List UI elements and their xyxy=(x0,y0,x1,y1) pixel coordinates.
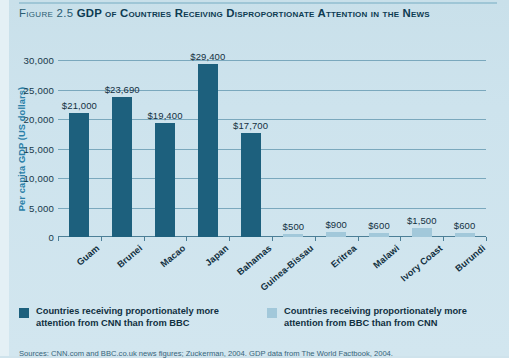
title-top-rule xyxy=(19,2,497,4)
y-tick-label: 15,000 xyxy=(23,143,54,154)
x-tick-mark xyxy=(486,237,487,241)
bar-japan xyxy=(198,64,218,237)
y-tick-label: 25,000 xyxy=(23,84,54,95)
x-tick-mark xyxy=(272,237,273,241)
bar-value-label: $500 xyxy=(283,221,305,232)
bar-brunei xyxy=(112,97,132,237)
x-tick-mark xyxy=(229,237,230,241)
bar-malawi xyxy=(369,233,389,237)
bar-guinea-bissau xyxy=(283,234,303,237)
y-tick-label: 5,000 xyxy=(29,202,54,213)
x-tick-label: Ivory Coast xyxy=(399,243,445,284)
y-axis-tick-labels: 05,00010,00015,00020,00025,00030,000 xyxy=(0,60,54,237)
x-tick-mark xyxy=(400,237,401,241)
figure-title-block: Figure 2.5 GDP of Countries Receiving Di… xyxy=(19,6,497,21)
figure-title-text: GDP of Countries Receiving Disproportion… xyxy=(77,7,430,19)
legend-swatch-cnn-icon xyxy=(19,308,29,318)
bar-value-label: $600 xyxy=(368,220,390,231)
bar-value-label: $1,500 xyxy=(407,215,437,226)
bar-value-label: $600 xyxy=(454,220,476,231)
x-tick-mark xyxy=(443,237,444,241)
page-title: Figure 2.5 GDP of Countries Receiving Di… xyxy=(19,6,497,21)
plot-area: $21,000Guam$23,690Brunei$19,400Macao$29,… xyxy=(58,60,486,237)
chart-legend: Countries receiving proportionately more… xyxy=(19,306,497,329)
x-tick-label: Guam xyxy=(75,243,102,268)
figure-source-note: Sources: CNN.com and BBC.co.uk news figu… xyxy=(19,349,497,358)
legend-label-cnn: Countries receiving proportionately more… xyxy=(36,306,249,329)
y-tick-label: 30,000 xyxy=(23,55,54,66)
legend-item-cnn: Countries receiving proportionately more… xyxy=(19,306,249,329)
y-tick-label: 10,000 xyxy=(23,173,54,184)
gridline xyxy=(58,60,486,61)
bar-value-label: $17,700 xyxy=(233,120,268,131)
x-tick-mark xyxy=(186,237,187,241)
x-tick-label: Brunei xyxy=(115,243,144,270)
bar-value-label: $900 xyxy=(325,219,347,230)
x-tick-mark xyxy=(58,237,59,241)
legend-item-bbc: Countries receiving proportionately more… xyxy=(267,306,497,329)
x-tick-mark xyxy=(144,237,145,241)
y-tick-label: 20,000 xyxy=(23,114,54,125)
x-tick-label: Macao xyxy=(159,243,188,269)
legend-label-bbc: Countries receiving proportionately more… xyxy=(284,306,497,329)
x-tick-label: Japan xyxy=(203,243,230,268)
x-tick-label: Malawi xyxy=(371,243,401,270)
bar-value-label: $21,000 xyxy=(62,100,97,111)
bar-value-label: $19,400 xyxy=(147,110,182,121)
bar-macao xyxy=(155,123,175,237)
x-tick-mark xyxy=(358,237,359,241)
x-tick-mark xyxy=(101,237,102,241)
x-tick-mark xyxy=(315,237,316,241)
x-tick-label: Bahamas xyxy=(235,243,273,277)
bar-eritrea xyxy=(326,232,346,237)
legend-swatch-bbc-icon xyxy=(267,308,277,318)
x-tick-label: Burundi xyxy=(453,243,487,274)
bar-value-label: $29,400 xyxy=(190,51,225,62)
figure-number: Figure 2.5 xyxy=(19,7,73,19)
bar-burundi xyxy=(455,233,475,237)
bar-ivory-coast xyxy=(412,228,432,237)
bar-value-label: $23,690 xyxy=(105,84,140,95)
bar-guam xyxy=(69,113,89,237)
bar-bahamas xyxy=(241,133,261,237)
x-tick-label: Eritrea xyxy=(329,243,358,270)
y-tick-label: 0 xyxy=(48,232,54,243)
